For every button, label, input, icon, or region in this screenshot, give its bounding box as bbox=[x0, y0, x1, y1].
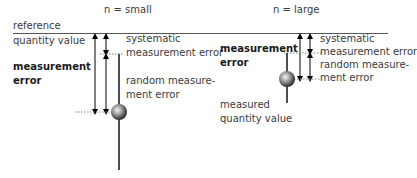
random-error-label: random measure- bbox=[126, 75, 215, 87]
measured-quantity-label: measured bbox=[220, 99, 270, 111]
random-error-label-2: ment error bbox=[126, 89, 180, 101]
systematic-error-label: systematic bbox=[126, 33, 180, 45]
measured-quantity-label-2: quantity value bbox=[220, 113, 292, 125]
header-large: n = large bbox=[273, 4, 319, 16]
random-error-label: random measure- bbox=[320, 59, 409, 71]
measured-value-ball bbox=[111, 104, 127, 120]
reference-label-line2: quantity value bbox=[13, 35, 85, 47]
header-small: n = small bbox=[104, 4, 152, 16]
measurement-error-label: measurement bbox=[13, 61, 91, 73]
systematic-error-label-2: measurement error bbox=[320, 46, 417, 58]
systematic-error-label-2: measurement error bbox=[126, 47, 223, 59]
measurement-error-label: measurement bbox=[220, 43, 298, 55]
measurement-error-label-2: error bbox=[220, 57, 248, 69]
measured-value-ball bbox=[279, 71, 295, 87]
left-panel-graphics bbox=[75, 36, 127, 170]
systematic-error-label: systematic bbox=[320, 33, 374, 45]
random-error-label-2: ment error bbox=[320, 72, 374, 84]
measurement-error-label-2: error bbox=[13, 75, 41, 87]
reference-label-line1: reference bbox=[13, 20, 61, 32]
